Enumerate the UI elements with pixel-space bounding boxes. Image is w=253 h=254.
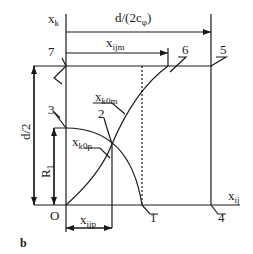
point-label-5: 5 — [220, 42, 227, 57]
point-label-4: 4 — [218, 210, 225, 225]
axis-label-xk: xk — [48, 11, 60, 28]
dim-label-ijm: xijm — [106, 35, 125, 52]
curve-label-k0p: xk0p — [72, 134, 93, 151]
point-label-1: 1 — [150, 210, 157, 225]
point-label-3: 3 — [48, 102, 55, 117]
diagram-canvas: xk xij O d/(2cφ) xijm xijp d/2 R1 xk0m x… — [0, 0, 253, 254]
curve-k0p — [54, 128, 142, 205]
origin-label: O — [50, 208, 59, 223]
point-label-7: 7 — [48, 44, 55, 59]
axis-label-xij: xij — [228, 188, 240, 205]
dim-label-height: d/2 — [18, 123, 33, 140]
dim-label-ijp: xijp — [80, 212, 97, 229]
dim-label-top-width: d/(2cφ) — [115, 10, 151, 27]
curve-k0m — [66, 66, 168, 205]
point-label-6: 6 — [182, 42, 189, 57]
point-label-2: 2 — [98, 106, 105, 121]
curve-label-k0m: xk0m — [95, 89, 118, 106]
dim-label-radius: R1 — [38, 165, 55, 178]
panel-label: b — [20, 236, 27, 250]
